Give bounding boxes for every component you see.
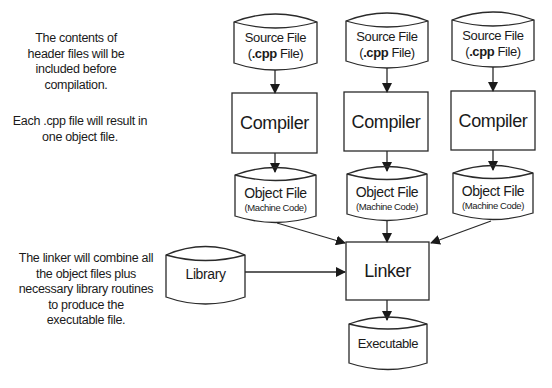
source-file-ext: (.cpp File) [452, 44, 534, 60]
note-linker: The linker will combine all the object f… [18, 251, 154, 329]
object-file-3: Object File (Machine Code) [453, 183, 533, 212]
compiler-label: Compiler [232, 113, 317, 133]
compiler-1: Compiler [232, 113, 317, 133]
executable-label: Executable [349, 336, 427, 352]
note-object-files: Each .cpp file will result in one object… [10, 114, 150, 145]
library-label: Library [166, 266, 245, 283]
linker-label: Linker [346, 261, 429, 281]
note-header-files: The contents of header files will be inc… [16, 31, 136, 93]
source-file-1: Source File (.cpp File) [234, 30, 317, 62]
executable: Executable [349, 336, 427, 352]
object-file-title: Object File [453, 183, 533, 200]
compiler-2: Compiler [344, 112, 428, 132]
library: Library [166, 266, 245, 283]
source-file-ext: (.cpp File) [234, 46, 317, 62]
source-file-title: Source File [452, 28, 534, 44]
linker: Linker [346, 261, 429, 281]
source-file-3: Source File (.cpp File) [452, 28, 534, 60]
object-file-subtitle: (Machine Code) [453, 200, 533, 212]
source-file-2: Source File (.cpp File) [346, 29, 428, 61]
compiler-label: Compiler [344, 112, 428, 132]
source-file-ext: (.cpp File) [346, 45, 428, 61]
source-file-title: Source File [234, 30, 317, 46]
object-file-subtitle: (Machine Code) [347, 201, 427, 213]
object-file-title: Object File [235, 185, 316, 202]
object-file-subtitle: (Machine Code) [235, 202, 316, 214]
object-file-title: Object File [347, 184, 427, 201]
compiler-3: Compiler [451, 111, 535, 131]
object-file-1: Object File (Machine Code) [235, 185, 316, 214]
source-file-title: Source File [346, 29, 428, 45]
compiler-label: Compiler [451, 111, 535, 131]
object-file-2: Object File (Machine Code) [347, 184, 427, 213]
